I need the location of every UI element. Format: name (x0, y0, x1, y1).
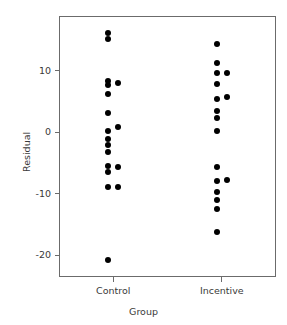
data-point (214, 41, 220, 47)
data-point (214, 229, 220, 235)
data-point (214, 81, 220, 87)
data-point (214, 115, 220, 121)
data-point (105, 184, 111, 190)
plot-area (59, 16, 276, 277)
y-tick-mark (55, 193, 59, 194)
y-axis-title: Residual (22, 132, 32, 172)
data-point (214, 164, 220, 170)
y-tick-mark (55, 70, 59, 71)
data-point (224, 94, 230, 100)
data-point (115, 184, 121, 190)
x-axis-title: Group (0, 307, 287, 317)
y-tick-label: 10 (15, 66, 51, 76)
residual-dotplot-figure: 100-10-20 ControlIncentive Residual Grou… (0, 0, 287, 325)
data-point (214, 96, 220, 102)
y-tick-label: -10 (15, 189, 51, 199)
x-tick-label: Incentive (182, 286, 262, 296)
y-tick-mark (55, 255, 59, 256)
data-point (214, 60, 220, 66)
data-point (214, 128, 220, 134)
x-tick-mark (113, 277, 114, 282)
data-point (105, 169, 111, 175)
data-point (105, 163, 111, 169)
data-point (214, 70, 220, 76)
y-tick-mark (55, 132, 59, 133)
data-point (224, 70, 230, 76)
x-tick-mark (221, 277, 222, 282)
data-point (214, 178, 220, 184)
data-point (105, 30, 111, 36)
data-point (214, 189, 220, 195)
data-point (105, 36, 111, 42)
x-tick-label: Control (73, 286, 153, 296)
y-tick-label: -20 (15, 250, 51, 260)
data-point (214, 197, 220, 203)
